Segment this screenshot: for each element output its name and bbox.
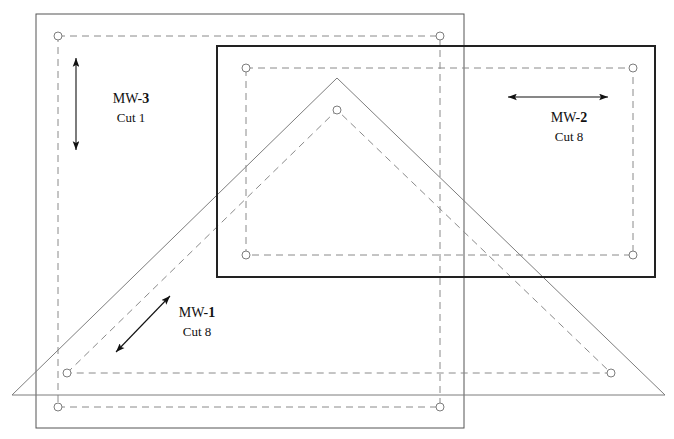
- piece-label-mw1-cut: Cut 8: [183, 324, 212, 339]
- triangle-piece-mw1-seam-line: [67, 110, 611, 373]
- piece-label-mw2-code: MW-2: [551, 110, 588, 125]
- piece-label-mw3-code: MW-3: [113, 91, 150, 106]
- piece-label-mw3-cut: Cut 1: [117, 110, 146, 125]
- piece-label-group: MW-3 Cut 1 MW-2 Cut 8 MW-1 Cut 8: [113, 91, 588, 339]
- seam-corner-marker: [607, 369, 615, 377]
- piece-group-mw2: [217, 46, 655, 277]
- seam-corner-marker: [54, 403, 62, 411]
- piece-label-mw2-cut: Cut 8: [555, 129, 584, 144]
- seam-corner-marker: [436, 403, 444, 411]
- seam-corner-marker: [629, 251, 637, 259]
- piece-label-mw2-number: 2: [580, 110, 587, 125]
- piece-label-mw1: MW-1 Cut 8: [179, 305, 216, 339]
- piece-group-mw1: [12, 78, 665, 395]
- grain-arrow-mw1: [116, 296, 170, 352]
- piece-label-mw3-prefix: MW-: [113, 91, 143, 106]
- piece-label-mw3-number: 3: [142, 91, 149, 106]
- piece-label-mw2-prefix: MW-: [551, 110, 581, 125]
- pattern-layout-sheet: MW-3 Cut 1 MW-2 Cut 8 MW-1 Cut 8: [0, 0, 674, 439]
- grain-arrow-group: [76, 58, 608, 352]
- triangle-piece-mw1-cut-line: [12, 78, 665, 395]
- seam-corner-marker: [436, 32, 444, 40]
- seam-corner-marker: [54, 32, 62, 40]
- seam-corner-marker: [333, 106, 341, 114]
- square-piece-mw3-cut-line: [36, 14, 464, 428]
- pattern-diagram: MW-3 Cut 1 MW-2 Cut 8 MW-1 Cut 8: [0, 0, 674, 439]
- seam-corner-marker: [242, 64, 250, 72]
- rect-piece-mw2-cut-line: [217, 46, 655, 277]
- seam-corner-marker: [242, 251, 250, 259]
- piece-label-mw1-prefix: MW-: [179, 305, 209, 320]
- seam-corner-marker: [63, 369, 71, 377]
- piece-label-mw1-number: 1: [208, 305, 215, 320]
- piece-label-mw1-code: MW-1: [179, 305, 216, 320]
- piece-group-mw3: [36, 14, 464, 428]
- piece-label-mw3: MW-3 Cut 1: [113, 91, 150, 125]
- piece-label-mw2: MW-2 Cut 8: [551, 110, 588, 144]
- seam-corner-marker-group: [54, 32, 637, 411]
- seam-corner-marker: [629, 64, 637, 72]
